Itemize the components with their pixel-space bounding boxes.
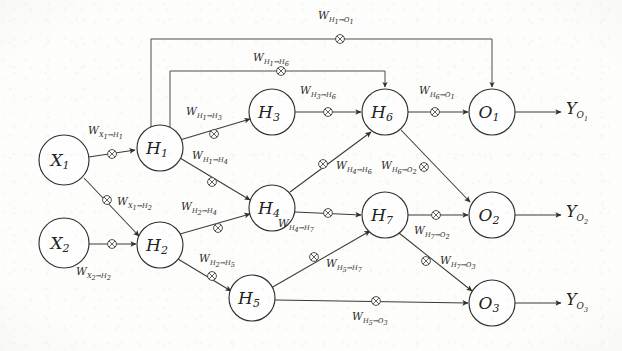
node-h6-label: H [370, 102, 387, 122]
node-x2[interactable]: X2 [39, 218, 89, 268]
node-h2-label: H [145, 235, 162, 255]
multiplier-h5-o3 [372, 297, 381, 306]
neural-network-diagram: X1 X2 H1 H2 H3 H4 [0, 0, 622, 351]
node-o2-sub: 2 [491, 214, 499, 227]
multiplier-h1-h4 [208, 178, 217, 187]
weight-label-h1-o1: WH1→O1 [318, 10, 354, 26]
weight-label-h1-h3: WH1→H3 [186, 106, 222, 122]
node-o3-sub: 3 [492, 302, 499, 315]
weight-label-h5-o3: WH5→O3 [352, 311, 388, 327]
node-x1[interactable]: X1 [39, 135, 89, 185]
multiplier-h6-o1 [431, 108, 440, 117]
weight-label-h2-h5: WH2→H5 [199, 253, 235, 269]
multiplier-x2-h2 [108, 240, 117, 249]
network-graph-canvas: X1 X2 H1 H2 H3 H4 [0, 0, 622, 351]
multiplier-x1-h1 [108, 150, 117, 159]
multiplier-h7-o3 [422, 257, 431, 266]
node-x1-sub: 1 [63, 159, 70, 172]
weight-label-h3-h6: WH3→H6 [300, 85, 336, 101]
weight-label-x1-h2: WX1→H2 [117, 196, 152, 212]
weight-label-h6-o2: WH6→O2 [381, 160, 417, 176]
weight-label-h7-o3: WH7→O3 [440, 255, 476, 271]
node-o2[interactable]: O2 [469, 192, 515, 238]
node-o2-label: O [479, 205, 493, 225]
multiplier-h2-h5 [208, 272, 217, 281]
node-o3-label: O [479, 293, 493, 313]
node-h6-sub: 6 [386, 111, 393, 124]
weight-label-h7-o2: WH7→O2 [414, 225, 450, 241]
node-o1-label: O [479, 102, 493, 122]
node-h1-sub: 1 [161, 147, 168, 160]
node-h3-label: H [257, 102, 274, 122]
multiplier-h3-h6 [324, 108, 333, 117]
node-h7[interactable]: H7 [362, 192, 408, 238]
node-x2-sub: 2 [62, 242, 70, 255]
multiplier-h1-h3 [210, 130, 219, 139]
node-h5[interactable]: H5 [229, 275, 275, 321]
weight-label-h4-h7: WH4→H7 [278, 218, 314, 234]
node-h6[interactable]: H6 [362, 89, 408, 135]
node-h5-label: H [237, 288, 254, 308]
weight-label-x2-h2: WX2→H2 [76, 266, 111, 282]
multiplier-h7-o2 [432, 211, 441, 220]
multiplier-h5-h7 [310, 253, 319, 262]
node-o1-sub: 1 [492, 111, 499, 124]
node-x2-label: X [48, 233, 63, 253]
weight-label-x1-h1: WX1→H1 [88, 125, 123, 141]
node-o1[interactable]: O1 [469, 89, 515, 135]
node-h7-sub: 7 [386, 214, 393, 227]
node-o3[interactable]: O3 [469, 280, 515, 326]
node-h3[interactable]: H3 [249, 89, 295, 135]
node-h5-sub: 5 [253, 297, 260, 310]
node-h7-label: H [370, 205, 387, 225]
output-label-y-o1: YO1 [566, 101, 588, 122]
weight-label-h2-h4: WH2→H4 [181, 201, 217, 217]
multiplier-h4-h6 [319, 160, 328, 169]
multiplier-x1-h2 [103, 196, 112, 205]
weight-label-h4-h6: WH4→H6 [336, 160, 372, 176]
node-h3-sub: 3 [273, 111, 280, 124]
output-label-y-o2: YO2 [566, 204, 588, 225]
weight-label-h5-h7: WH5→H7 [326, 258, 362, 274]
weight-label-h1-h6: WH1→H6 [253, 52, 289, 68]
node-h2[interactable]: H2 [137, 222, 183, 268]
node-h2-sub: 2 [160, 244, 168, 257]
node-h1[interactable]: H1 [137, 125, 183, 171]
node-h1-label: H [145, 138, 162, 158]
multiplier-h6-o2 [420, 163, 429, 172]
multiplier-h1-o1 [336, 35, 345, 44]
weight-label-h1-h4: WH1→H4 [192, 150, 228, 166]
node-h4-label: H [257, 198, 274, 218]
output-label-y-o3: YO3 [566, 292, 588, 313]
weight-label-h6-o1: WH6→O1 [419, 85, 455, 101]
multiplier-h2-h4 [214, 224, 223, 233]
node-x1-label: X [48, 150, 63, 170]
multiplier-h4-h7 [324, 209, 333, 218]
